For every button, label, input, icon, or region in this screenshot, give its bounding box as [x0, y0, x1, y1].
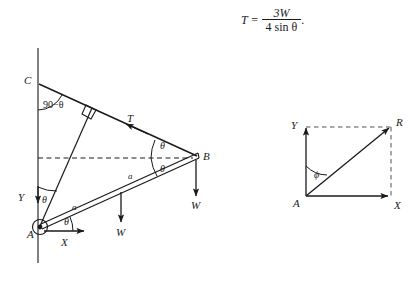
equation-lhs: T = [241, 13, 259, 27]
axis-label-Y-left: Y [18, 192, 24, 203]
axis-label-X-right: X [394, 200, 401, 211]
right-angle-mark-icon [82, 105, 96, 119]
right-diagram-group [306, 127, 391, 196]
figure-canvas: T = 3W 4 sin θ . C A B 90−θ Y X θ θ θ θ … [0, 0, 413, 284]
perpendicular-line-A-to-CB [40, 108, 92, 226]
point-label-C: C [24, 75, 31, 86]
force-label-T: T [127, 113, 133, 124]
equation-numerator: 3W [262, 7, 302, 19]
point-label-A-right: A [293, 198, 300, 209]
tension-equation: T = 3W 4 sin θ . [241, 8, 304, 34]
axis-label-Y-right: Y [291, 120, 297, 131]
angle-label-phi: ϕ [314, 170, 319, 180]
equation-trailing-punctuation: . [301, 13, 304, 27]
force-label-W-at-B: W [191, 200, 200, 211]
angle-arc-at-A-vertical [38, 187, 57, 191]
length-label-a-lower: a [72, 203, 77, 212]
angle-label-theta-at-B-lower: θ [160, 164, 165, 174]
angle-arc-at-B-upper [151, 140, 155, 158]
angle-label-theta-at-B-upper: θ [160, 141, 165, 151]
axis-label-X-left: X [61, 237, 68, 248]
tension-arrow [126, 124, 148, 134]
point-label-B: B [203, 151, 210, 162]
cable-segment-CB [39, 84, 197, 156]
length-label-a-upper: a [128, 172, 133, 181]
angle-label-theta-at-A-horizontal: θ [64, 217, 69, 227]
angle-label-90-minus-theta: 90−θ [43, 100, 63, 110]
force-label-W-midspan: W [116, 227, 125, 238]
equation-fraction: 3W 4 sin θ [262, 7, 302, 33]
angle-label-theta-at-A-vertical: θ [42, 195, 47, 205]
point-label-A: A [27, 229, 34, 240]
resultant-vector-AR [306, 128, 389, 196]
point-label-R-right: R [396, 117, 403, 128]
equation-denominator: 4 sin θ [262, 19, 302, 33]
angle-arc-at-A-horizontal [70, 217, 73, 231]
